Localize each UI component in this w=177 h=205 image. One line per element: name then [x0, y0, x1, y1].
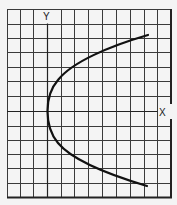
- x-axis-label: X: [159, 107, 166, 118]
- frame: [7, 9, 172, 198]
- graph-paper: Y X: [0, 0, 177, 205]
- y-axis-label: Y: [43, 11, 50, 22]
- parabola-curve: [48, 35, 149, 186]
